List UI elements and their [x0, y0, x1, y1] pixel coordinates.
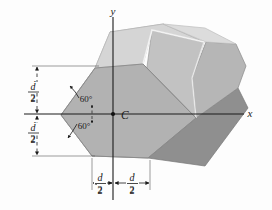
- centroid-label: C: [121, 109, 129, 121]
- x-axis-label: x: [247, 107, 253, 119]
- frac-glyph-horiz-left-den: 2: [98, 185, 103, 196]
- frac-glyph-vert-upper-den: 2: [31, 93, 36, 104]
- figure-container: x y C d 2: [0, 0, 272, 210]
- angle-lower-label: 60°: [78, 121, 91, 131]
- y-axis-label: y: [110, 5, 116, 17]
- centroid-dot: [111, 112, 115, 116]
- frac-glyph-horiz-right-den: 2: [130, 185, 135, 196]
- angle-upper-label: 60°: [80, 94, 93, 104]
- hexagonal-prism-diagram: x y C d 2: [0, 0, 272, 210]
- frac-glyph-vert-lower-den: 2: [31, 134, 36, 145]
